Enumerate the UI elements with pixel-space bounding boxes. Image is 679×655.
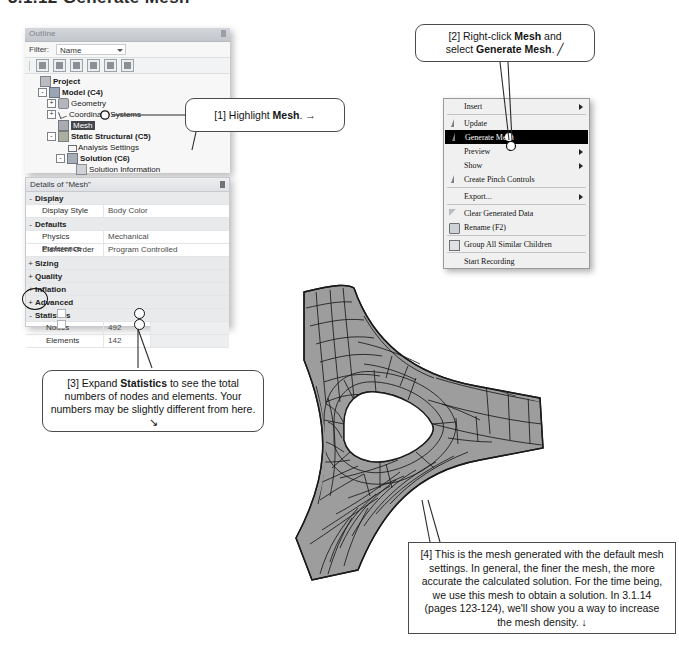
details-group-label: Display	[35, 194, 63, 203]
lightning-icon	[449, 119, 458, 128]
details-group-quality[interactable]: +Quality	[26, 270, 229, 283]
details-group-sizing[interactable]: +Sizing	[26, 257, 229, 270]
menu-item-create-pinch-controls[interactable]: Create Pinch Controls	[444, 172, 589, 186]
mesh-svg	[240, 282, 550, 582]
menu-item-rename-f2[interactable]: Rename (F2)	[444, 220, 589, 234]
outline-refresh-icon[interactable]	[36, 59, 49, 72]
tree-item-solution-information[interactable]: Solution Information	[29, 164, 230, 175]
callout-2: [2] Right-click Mesh and select Generate…	[415, 24, 595, 62]
details-pin-icon[interactable]	[220, 181, 225, 188]
filter-select[interactable]: Name	[56, 44, 126, 55]
chevron-down-icon	[117, 49, 123, 52]
menu-item-clear-generated-data[interactable]: Clear Generated Data	[444, 206, 589, 220]
tree-item-model-c4[interactable]: -Model (C4)	[29, 87, 230, 98]
details-stat-elements: Elements142	[26, 335, 229, 348]
collapse-icon[interactable]: -	[26, 194, 35, 203]
rename-icon	[449, 223, 460, 234]
details-prop-value[interactable]: Body Color	[104, 205, 229, 217]
tree-item-project[interactable]: Project	[29, 76, 230, 87]
collapse-icon[interactable]: -	[26, 311, 35, 320]
menu-item-show[interactable]: Show	[444, 158, 589, 172]
details-panel: Details of "Mesh" -DisplayDisplay StyleB…	[25, 177, 230, 327]
expand-icon[interactable]: +	[26, 272, 35, 281]
details-prop-value[interactable]: Mechanical	[104, 231, 229, 243]
outline-titlebar: Outline	[25, 28, 230, 42]
details-group-inflation[interactable]: +Inflation	[26, 283, 229, 296]
outline-expand-icon[interactable]	[53, 59, 66, 72]
details-prop-value[interactable]: Program Controlled	[104, 244, 229, 256]
menu-item-label: Export...	[464, 192, 492, 201]
menu-item-group-all-similar-children[interactable]: Group All Similar Children	[444, 237, 589, 251]
model-icon	[49, 87, 60, 98]
menu-item-update[interactable]: Update	[444, 116, 589, 130]
page-title: 3.1.12 Generate Mesh	[8, 0, 190, 8]
analysis-settings-icon	[67, 143, 76, 152]
expand-icon[interactable]: +	[47, 110, 56, 119]
details-prop-label: Physics Preference	[26, 231, 104, 243]
collapse-icon[interactable]: -	[26, 220, 35, 229]
outline-toolbar	[25, 58, 230, 74]
outline-sort-icon[interactable]	[121, 59, 134, 72]
menu-item-preview[interactable]: Preview	[444, 144, 589, 158]
cursor-dot	[505, 133, 513, 141]
details-group-label: Defaults	[35, 220, 67, 229]
menu-item-insert[interactable]: Insert	[444, 99, 589, 113]
callout-2-text: [2] Right-click Mesh and select Generate…	[446, 30, 564, 55]
tree-item-static-structural-c5[interactable]: -Static Structural (C5)	[29, 131, 230, 142]
menu-item-label: Clear Generated Data	[464, 209, 533, 218]
details-prop-label: Element Order	[26, 244, 104, 256]
tree-item-label: Mesh	[71, 121, 95, 130]
menu-item-start-recording[interactable]: Start Recording	[444, 254, 589, 268]
menu-item-label: Show	[464, 161, 482, 170]
collapse-icon[interactable]: -	[56, 154, 65, 163]
outline-filter-row: Filter: Name	[25, 42, 230, 58]
callout-1-text: [1] Highlight Mesh. →	[214, 109, 316, 122]
expand-icon[interactable]: +	[26, 259, 35, 268]
submenu-arrow-icon	[579, 194, 583, 200]
tree-item-label: Geometry	[71, 99, 106, 108]
lightning-icon	[450, 133, 459, 142]
menu-item-export[interactable]: Export...	[444, 189, 589, 203]
nodes-row-box	[57, 309, 66, 318]
expand-icon[interactable]: +	[47, 99, 56, 108]
menu-item-label: Insert	[464, 102, 482, 111]
collapse-icon[interactable]: -	[38, 88, 47, 97]
menu-item-label: Start Recording	[464, 257, 514, 266]
static-structural-icon	[58, 131, 69, 142]
details-group-display[interactable]: -Display	[26, 192, 229, 205]
tree-item-analysis-settings[interactable]: Analysis Settings	[29, 142, 230, 153]
statistics-highlight-ellipse	[22, 288, 48, 310]
pin-icon[interactable]	[221, 30, 226, 37]
elements-row-box	[57, 320, 66, 329]
tree-item-label: Project	[53, 77, 80, 86]
menu-item-generate-mesh[interactable]: Generate Mesh	[445, 130, 588, 144]
submenu-arrow-icon	[579, 104, 583, 110]
details-panel-title: Details of "Mesh"	[26, 178, 229, 192]
elements-callout-circle	[134, 319, 145, 330]
details-group-advanced[interactable]: +Advanced	[26, 296, 229, 309]
tree-item-solution-c6[interactable]: -Solution (C6)	[29, 153, 230, 164]
triangle-icon	[449, 209, 456, 216]
menu-item-label: Preview	[464, 147, 490, 156]
menu-item-label: Create Pinch Controls	[464, 175, 535, 184]
filter-value: Name	[60, 46, 81, 55]
tree-item-label: Static Structural (C5)	[71, 132, 151, 141]
submenu-arrow-icon	[579, 149, 583, 155]
details-prop-display-style[interactable]: Display StyleBody Color	[26, 205, 229, 218]
details-group-defaults[interactable]: -Defaults	[26, 218, 229, 231]
outline-collapse-icon[interactable]	[104, 59, 117, 72]
details-prop-physics-preference[interactable]: Physics PreferenceMechanical	[26, 231, 229, 244]
box-icon	[449, 240, 460, 251]
coordinate-systems-icon	[58, 110, 67, 119]
filter-label: Filter:	[29, 45, 49, 54]
collapse-icon[interactable]: -	[47, 132, 56, 141]
callout-1: [1] Highlight Mesh. →	[185, 98, 345, 132]
outline-preview-icon[interactable]	[70, 59, 83, 72]
outline-title: Outline	[29, 29, 56, 38]
menu-separator	[447, 187, 586, 188]
details-prop-element-order[interactable]: Element OrderProgram Controlled	[26, 244, 229, 257]
details-prop-label: Display Style	[26, 205, 104, 217]
details-stat-label: Elements	[26, 335, 104, 347]
nodes-callout-circle	[134, 308, 145, 319]
outline-expand-all-icon[interactable]	[87, 59, 100, 72]
